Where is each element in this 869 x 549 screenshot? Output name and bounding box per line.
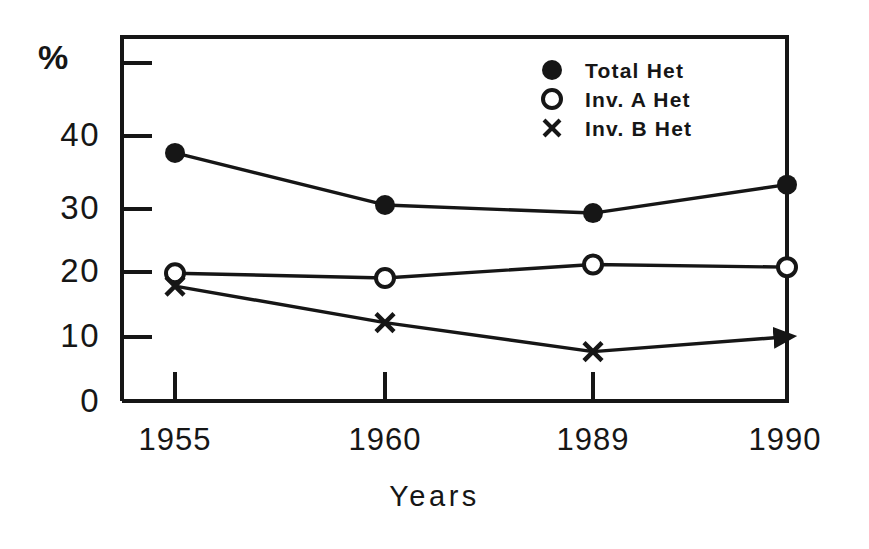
data-point-open-circle — [778, 258, 796, 276]
y-axis-ticks — [122, 63, 152, 337]
plot-frame — [122, 37, 787, 401]
data-point-filled-circle — [777, 175, 797, 195]
data-series-layer — [165, 143, 797, 361]
series-inv-a-het — [166, 255, 796, 287]
data-point-filled-circle — [583, 203, 603, 223]
data-point-filled-circle — [165, 143, 185, 163]
data-point-filled-circle — [375, 195, 395, 215]
series-line — [175, 286, 787, 352]
legend-markers — [542, 60, 562, 136]
legend-marker-filled-circle — [542, 60, 562, 80]
series-line — [175, 264, 787, 278]
legend-marker-cross — [544, 120, 560, 136]
series-line — [175, 153, 787, 213]
plot-area — [0, 0, 869, 549]
series-inv-b-het — [166, 277, 787, 361]
chart-figure: % 40 30 20 10 0 1955 1960 1989 1990 Year… — [0, 0, 869, 549]
x-axis-ticks — [175, 372, 593, 401]
legend-marker-open-circle — [543, 90, 561, 108]
data-point-open-circle — [376, 269, 394, 287]
data-point-open-circle — [584, 255, 602, 273]
series-total-het — [165, 143, 797, 223]
